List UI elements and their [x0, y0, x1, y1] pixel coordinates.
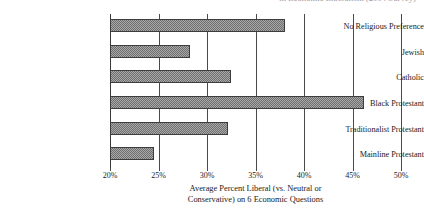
x-tick-label: 25%: [151, 171, 166, 180]
gridline-25%: [159, 14, 160, 168]
x-tick-label: 30%: [200, 171, 215, 180]
x-axis-title-line-2: Conservative) on 6 Economic Questions: [110, 194, 401, 205]
x-tick-label: 20%: [103, 171, 118, 180]
category-label: Jewish: [320, 48, 424, 58]
clipped-top-caption: in Economic Liberalism (2004 Survey): [279, 0, 416, 3]
bar: [110, 19, 285, 32]
gridline-35%: [256, 14, 257, 168]
x-axis-title: Average Percent Liberal (vs. Neutral or …: [110, 183, 401, 205]
x-tick-label: 40%: [297, 171, 312, 180]
gridline-50%: [401, 14, 402, 168]
bar: [110, 45, 190, 58]
category-label: No Religious Preference: [320, 22, 424, 32]
bar: [110, 147, 154, 160]
bar: [110, 122, 228, 135]
category-label: Traditionalist Protestant: [320, 125, 424, 135]
x-tick-label: 45%: [345, 171, 360, 180]
x-tick-label: 35%: [248, 171, 263, 180]
gridline-45%: [353, 14, 354, 168]
x-tick-label: 50%: [394, 171, 409, 180]
chart-figure: in Economic Liberalism (2004 Survey) No …: [0, 0, 424, 212]
plot-area: [110, 14, 401, 168]
gridline-40%: [304, 14, 305, 168]
gridline-30%: [207, 14, 208, 168]
category-label: Black Protestant: [320, 99, 424, 109]
y-axis-line: [110, 14, 111, 168]
x-axis-title-line-1: Average Percent Liberal (vs. Neutral or: [110, 183, 401, 194]
category-label: Catholic: [320, 73, 424, 83]
category-label: Mainline Protestant: [320, 150, 424, 160]
bar: [110, 70, 231, 83]
